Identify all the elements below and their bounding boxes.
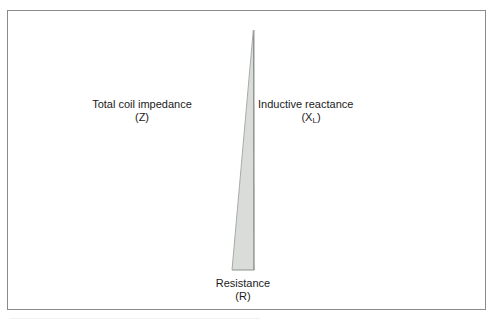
label-reactance-line1: Inductive reactance bbox=[258, 98, 353, 110]
label-reactance-symbol-suffix: ) bbox=[317, 111, 321, 123]
scan-artifact-line bbox=[10, 318, 260, 319]
figure-border bbox=[7, 10, 486, 310]
label-inductive-reactance: Inductive reactance (XL) bbox=[258, 98, 466, 127]
label-impedance-line2: (Z) bbox=[38, 111, 246, 124]
label-reactance-line2: (XL) bbox=[258, 111, 364, 127]
impedance-triangle-figure: Total coil impedance (Z) Inductive react… bbox=[0, 0, 496, 325]
label-resistance-line2: (R) bbox=[143, 290, 343, 303]
label-total-coil-impedance: Total coil impedance (Z) bbox=[38, 98, 246, 124]
label-resistance: Resistance (R) bbox=[143, 277, 343, 303]
label-impedance-line1: Total coil impedance bbox=[92, 98, 192, 110]
label-resistance-line1: Resistance bbox=[216, 277, 270, 289]
label-reactance-symbol-prefix: (X bbox=[301, 111, 312, 123]
